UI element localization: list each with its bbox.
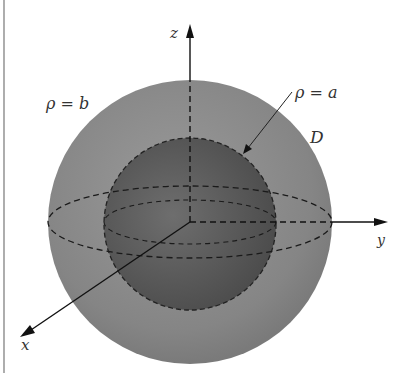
- inner-sphere: [104, 138, 276, 310]
- z-axis-arrow-icon: [186, 24, 194, 38]
- inner-sphere-label: ρ = a: [294, 83, 338, 102]
- spherical-shell-diagram: z y x ρ = b ρ = a D: [0, 0, 405, 373]
- outer-sphere-label: ρ = b: [45, 94, 89, 113]
- y-axis-arrow-icon: [374, 218, 388, 226]
- z-axis-label: z: [169, 24, 178, 42]
- x-axis-label: x: [21, 336, 30, 354]
- y-axis-label: y: [376, 232, 386, 248]
- region-d-label: D: [309, 127, 324, 147]
